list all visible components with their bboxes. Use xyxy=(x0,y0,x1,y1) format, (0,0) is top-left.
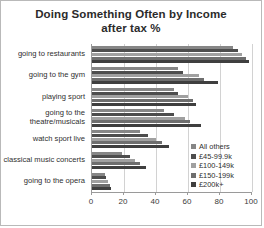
legend-label: £150-199k xyxy=(199,171,234,180)
bar[interactable] xyxy=(92,81,218,84)
x-tick-label: 40 xyxy=(143,197,167,206)
x-tick-mark xyxy=(251,192,252,195)
legend-swatch-icon xyxy=(191,163,196,168)
bar[interactable] xyxy=(92,162,140,165)
category-label: going to thetheatre/musicals xyxy=(1,109,85,126)
legend-item[interactable]: All others xyxy=(191,142,257,151)
legend-label: £100-149k xyxy=(199,161,234,170)
legend-item[interactable]: £100-149k xyxy=(191,161,257,170)
x-tick-mark xyxy=(219,192,220,195)
bar[interactable] xyxy=(92,46,233,49)
bar[interactable] xyxy=(92,120,190,123)
bar[interactable] xyxy=(92,130,140,133)
chart-container: Doing Something Often by Income after ta… xyxy=(0,0,262,226)
bar[interactable] xyxy=(92,88,174,91)
bar[interactable] xyxy=(92,117,185,120)
bar[interactable] xyxy=(92,155,130,158)
bar[interactable] xyxy=(92,173,105,176)
legend-swatch-icon xyxy=(191,144,196,149)
x-tick-label: 100 xyxy=(239,197,263,206)
bar[interactable] xyxy=(92,99,193,102)
legend-item[interactable]: £45-99.9k xyxy=(191,152,257,161)
bar[interactable] xyxy=(92,159,135,162)
legend-swatch-icon xyxy=(191,154,196,159)
bar[interactable] xyxy=(92,166,146,169)
gridline xyxy=(188,44,189,192)
bar[interactable] xyxy=(92,176,106,179)
x-tick-label: 0 xyxy=(79,197,103,206)
bar[interactable] xyxy=(92,138,156,141)
category-label: watch sport live xyxy=(1,135,85,144)
x-tick-label: 20 xyxy=(111,197,135,206)
bar[interactable] xyxy=(92,113,174,116)
category-label: going to the opera xyxy=(1,177,85,186)
category-label: classical music concerts xyxy=(1,156,85,165)
x-tick-mark xyxy=(155,192,156,195)
x-tick-mark xyxy=(91,192,92,195)
bar[interactable] xyxy=(92,141,162,144)
bar[interactable] xyxy=(92,53,242,56)
x-axis-line xyxy=(91,192,252,193)
bar[interactable] xyxy=(92,103,196,106)
legend-item[interactable]: £200k+ xyxy=(191,180,257,189)
bar[interactable] xyxy=(92,57,246,60)
bar[interactable] xyxy=(92,124,201,127)
chart-title-line2: after tax % xyxy=(1,21,261,35)
bar[interactable] xyxy=(92,67,178,70)
legend-label: All others xyxy=(199,142,230,151)
legend-item[interactable]: £150-199k xyxy=(191,171,257,180)
bar[interactable] xyxy=(92,74,199,77)
bar[interactable] xyxy=(92,78,204,81)
bar[interactable] xyxy=(92,152,122,155)
bar[interactable] xyxy=(92,145,169,148)
chart-title: Doing Something Often by Income after ta… xyxy=(1,7,261,35)
bar[interactable] xyxy=(92,187,111,190)
category-label: going to restaurants xyxy=(1,50,85,59)
bar[interactable] xyxy=(92,134,148,137)
x-tick-label: 80 xyxy=(207,197,231,206)
legend-label: £45-99.9k xyxy=(199,152,232,161)
bar[interactable] xyxy=(92,180,108,183)
bar[interactable] xyxy=(92,60,249,63)
legend-swatch-icon xyxy=(191,182,196,187)
bar[interactable] xyxy=(92,95,188,98)
category-axis-labels: going to restaurantsgoing to the gymplay… xyxy=(1,44,87,192)
x-tick-mark xyxy=(187,192,188,195)
chart-legend: All others£45-99.9k£100-149k£150-199k£20… xyxy=(191,142,257,190)
bar[interactable] xyxy=(92,49,238,52)
bar[interactable] xyxy=(92,92,178,95)
bar[interactable] xyxy=(92,71,183,74)
x-tick-mark xyxy=(123,192,124,195)
legend-swatch-icon xyxy=(191,173,196,178)
bar[interactable] xyxy=(92,184,110,187)
category-label: going to the gym xyxy=(1,71,85,80)
bar[interactable] xyxy=(92,109,164,112)
x-tick-label: 60 xyxy=(175,197,199,206)
category-label: playing sport xyxy=(1,93,85,102)
legend-label: £200k+ xyxy=(199,180,223,189)
chart-title-line1: Doing Something Often by Income xyxy=(35,8,227,20)
